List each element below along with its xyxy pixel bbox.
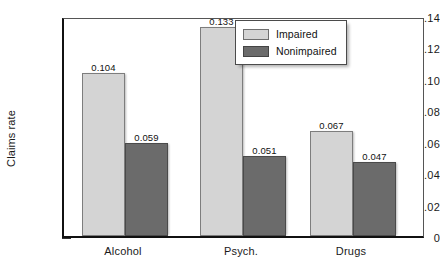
legend-label: Impaired [276, 28, 318, 40]
bar-drugs-nonimpaired [353, 162, 396, 236]
chart-legend: ImpairedNonimpaired [235, 20, 347, 65]
legend-swatch-impaired [243, 29, 269, 40]
bar-value-label: 0.067 [319, 120, 343, 131]
bar-value-label: 0.059 [134, 132, 158, 143]
bar-value-label: 0.051 [252, 145, 276, 156]
x-label-drugs: Drugs [336, 245, 366, 257]
legend-swatch-nonimpaired [243, 46, 269, 57]
bar-value-label: 0.104 [91, 62, 115, 73]
y-tick-0 [62, 238, 71, 239]
legend-item-impaired: Impaired [243, 27, 337, 41]
bar-alcohol-impaired [82, 73, 125, 236]
x-label-alcohol: Alcohol [104, 245, 141, 257]
bar-value-label: 0.047 [362, 151, 386, 162]
legend-label: Nonimpaired [276, 45, 337, 57]
x-label-psych: Psych. [224, 245, 258, 257]
bar-psych-nonimpaired [243, 156, 286, 236]
claims-rate-bar-chart: Claims rate 0.02.04.06.08.10.12.14 0.104… [0, 0, 440, 277]
legend-item-nonimpaired: Nonimpaired [243, 44, 337, 58]
bar-drugs-impaired [310, 131, 353, 236]
bar-value-label: 0.133 [209, 16, 233, 27]
y-axis-title: Claims rate [0, 0, 22, 277]
bar-alcohol-nonimpaired [125, 143, 168, 236]
